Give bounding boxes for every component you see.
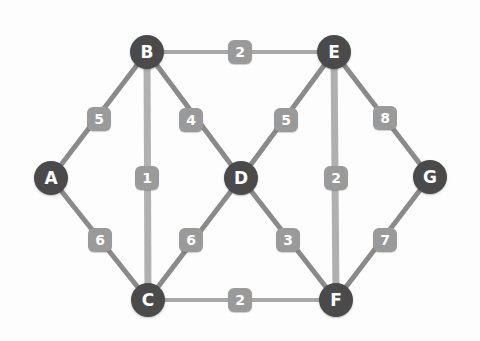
edge-weight-value: 5	[94, 112, 104, 126]
graph-node-label: E	[328, 44, 340, 61]
edge-weight-d-e[interactable]: 5	[274, 108, 298, 132]
graph-node-label: G	[423, 169, 437, 186]
graph-diagram-canvas: ABCDEFG 562145826372	[0, 0, 480, 341]
graph-node-e[interactable]: E	[317, 35, 351, 69]
graph-node-label: D	[234, 170, 248, 187]
edge-weight-b-e[interactable]: 2	[228, 40, 252, 64]
graph-node-c[interactable]: C	[131, 283, 165, 317]
edge-weight-e-f[interactable]: 2	[324, 166, 348, 190]
edge-weight-value: 3	[283, 233, 293, 247]
edge-weight-a-b[interactable]: 5	[87, 107, 111, 131]
edge-weight-value: 2	[331, 171, 341, 185]
edge-weight-value: 1	[142, 171, 152, 185]
edge-weight-a-c[interactable]: 6	[88, 228, 112, 252]
graph-node-label: B	[141, 44, 154, 61]
graph-node-f[interactable]: F	[319, 283, 353, 317]
graph-node-label: A	[44, 170, 57, 187]
edge-weight-b-d[interactable]: 4	[179, 108, 203, 132]
edge-weight-value: 5	[281, 113, 291, 127]
graph-node-label: F	[330, 292, 342, 309]
graph-node-a[interactable]: A	[34, 161, 68, 195]
edge-weight-value: 8	[380, 111, 390, 125]
edge-weight-value: 6	[186, 233, 196, 247]
graph-node-label: C	[142, 292, 154, 309]
graph-node-d[interactable]: D	[224, 161, 258, 195]
edge-weight-value: 7	[380, 233, 390, 247]
edge-weight-e-g[interactable]: 8	[373, 106, 397, 130]
edge-weight-d-f[interactable]: 3	[276, 228, 300, 252]
edge-weight-value: 2	[235, 293, 245, 307]
edge-weight-f-g[interactable]: 7	[373, 228, 397, 252]
edge-weight-c-d[interactable]: 6	[179, 228, 203, 252]
edge-weight-value: 4	[186, 113, 196, 127]
edge-weight-value: 6	[95, 233, 105, 247]
graph-node-g[interactable]: G	[413, 160, 447, 194]
edge-weight-b-c[interactable]: 1	[135, 166, 159, 190]
graph-node-b[interactable]: B	[130, 35, 164, 69]
edge-weight-value: 2	[235, 45, 245, 59]
edge-weight-c-f[interactable]: 2	[228, 288, 252, 312]
